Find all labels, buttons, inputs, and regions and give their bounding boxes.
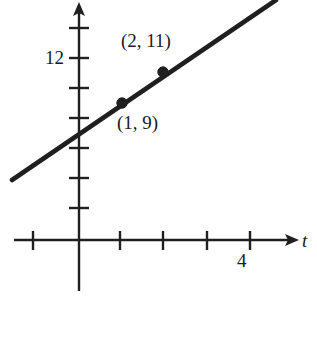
graph-figure: 12 4 t (1, 9) (2, 11) [0,0,317,349]
y-axis-group [73,2,85,291]
point-annotation-2-11: (2, 11) [121,31,171,50]
y-axis-tick-label-12: 12 [45,48,64,67]
x-axis-group [14,234,299,246]
x-axis-title-t: t [302,231,307,250]
data-point-2-11 [158,67,168,77]
x-axis-tick-label-4: 4 [237,251,247,270]
point-annotation-1-9: (1, 9) [117,113,158,132]
plotted-line [12,0,276,180]
data-point-1-9 [117,98,127,108]
